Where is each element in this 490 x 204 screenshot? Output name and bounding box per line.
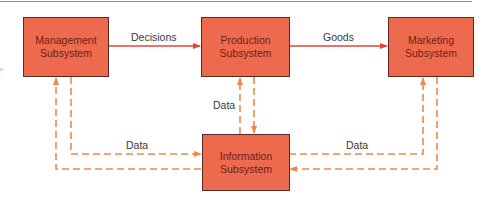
left-data-label: Data <box>126 139 148 151</box>
node-label-line2: Subsystem <box>220 47 272 60</box>
goods-label: Goods <box>323 31 354 43</box>
node-label-line1: Production <box>220 34 272 47</box>
info-to-mgmt-dashed <box>56 78 201 169</box>
node-label-line1: Marketing <box>405 34 457 47</box>
node-label-line1: Information <box>220 150 273 163</box>
right-data-label: Data <box>346 139 368 151</box>
node-label-line2: Subsystem <box>35 47 96 60</box>
production-subsystem-box: Production Subsystem <box>201 17 290 77</box>
decisions-label: Decisions <box>131 31 177 43</box>
information-subsystem-box: Information Subsystem <box>202 134 290 191</box>
node-label-line1: Management <box>35 34 96 47</box>
center-data-label: Data <box>213 99 235 111</box>
node-label-line2: Subsystem <box>220 163 273 176</box>
management-subsystem-box: Management Subsystem <box>23 17 109 77</box>
node-label-line2: Subsystem <box>405 47 457 60</box>
marketing-to-info-dashed <box>290 77 437 169</box>
marketing-subsystem-box: Marketing Subsystem <box>388 17 474 77</box>
